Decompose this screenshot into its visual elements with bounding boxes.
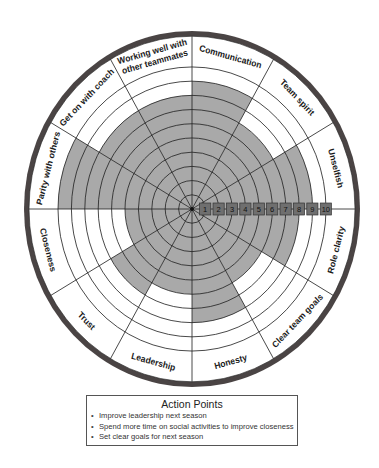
- action-points-list: Improve leadership next season Spend mor…: [91, 411, 293, 443]
- scale-number: 3: [230, 205, 234, 214]
- team-wheel-diagram: CommunicationTeam spiritUnselfishRole cl…: [0, 0, 379, 400]
- action-points-box: Action Points Improve leadership next se…: [86, 395, 298, 446]
- scale-number: 7: [284, 205, 288, 214]
- scale-number: 10: [322, 205, 330, 214]
- scale-number: 2: [217, 205, 221, 214]
- action-point-item: Spend more time on social activities to …: [91, 422, 293, 433]
- scale-number: 9: [310, 205, 314, 214]
- scale-number: 5: [257, 205, 261, 214]
- scale-number: 8: [297, 205, 301, 214]
- scale-number: 1: [203, 205, 207, 214]
- scale-number: 6: [270, 205, 274, 214]
- action-points-title: Action Points: [91, 398, 293, 411]
- action-point-item: Set clear goals for next season: [91, 432, 293, 443]
- scale-number: 4: [243, 205, 247, 214]
- action-point-item: Improve leadership next season: [91, 411, 293, 422]
